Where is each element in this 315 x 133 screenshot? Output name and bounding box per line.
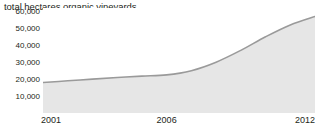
- x-tick-label: 2012: [295, 115, 315, 125]
- chart-figure: total hectares organic vineyards 10,0002…: [0, 0, 315, 133]
- y-tick-label: 30,000: [0, 58, 40, 67]
- x-tick-label: 2001: [41, 115, 61, 125]
- y-tick-label: 40,000: [0, 41, 40, 50]
- plot-area: [43, 8, 315, 113]
- area-chart-svg: [43, 8, 315, 113]
- x-axis: 200120062012: [0, 113, 315, 131]
- y-tick-label: 10,000: [0, 92, 40, 101]
- y-tick-label: 60,000: [0, 7, 40, 16]
- y-tick-label: 50,000: [0, 24, 40, 33]
- x-tick-label: 2006: [157, 115, 177, 125]
- y-tick-label: 20,000: [0, 75, 40, 84]
- y-axis: 10,00020,00030,00040,00050,00060,000: [0, 14, 40, 104]
